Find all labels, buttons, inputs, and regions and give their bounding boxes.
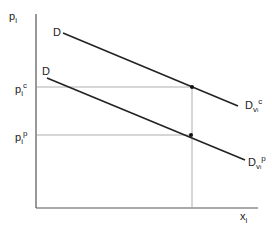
curve-lower-end-label: Dvip [248, 157, 266, 168]
curve-upper-start-label: D [53, 27, 61, 38]
demand-curve-lower [47, 78, 245, 160]
x-axis-label: xi [240, 211, 247, 222]
diagram-canvas [0, 0, 272, 232]
price-p-label: pip [15, 132, 27, 143]
price-c-label: pic [15, 84, 27, 95]
intersection-point-c [190, 85, 194, 89]
y-axis-label: pi [9, 11, 17, 22]
intersection-point-p [189, 133, 193, 137]
curve-lower-start-label: D [42, 66, 50, 77]
curve-upper-end-label: Dvic [245, 100, 262, 111]
